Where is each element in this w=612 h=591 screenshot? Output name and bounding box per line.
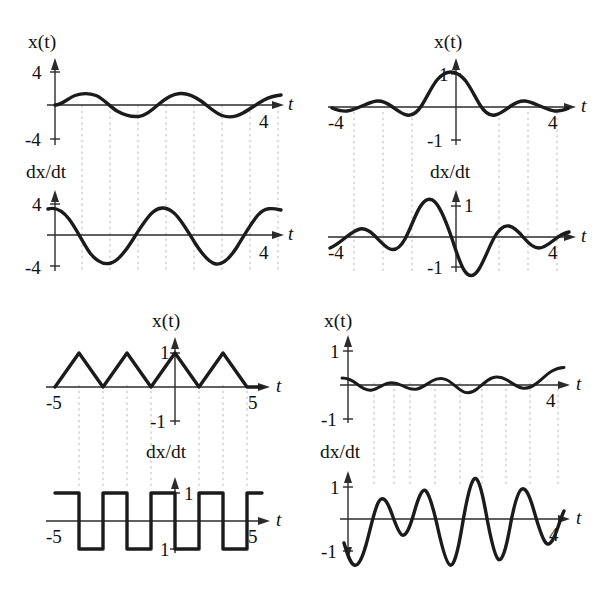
x-axis-label-bottom-right-derivative: t bbox=[576, 507, 582, 528]
subplot-top-left-derivative: dx/dt 4 -4 t 4 bbox=[25, 161, 294, 278]
signal-label-top-left: x(t) bbox=[28, 31, 56, 53]
subplot-bottom-right-derivative: dx/dt 1 -1 t 4 bbox=[320, 441, 582, 565]
curve-bottom-right-derivative bbox=[344, 478, 564, 565]
panel-bottom-right: x(t) 1 -1 t 4 dx/dt bbox=[306, 295, 612, 591]
y-top-label-top-left-derivative: 4 bbox=[32, 194, 42, 215]
panel-top-right: x(t) 1 -1 t -4 4 dx/dt bbox=[306, 0, 612, 296]
x-right-label-bottom-left-derivative: 5 bbox=[248, 526, 258, 547]
x-axis-label-top-right-derivative: t bbox=[581, 225, 587, 246]
curve-bottom-right-signal bbox=[342, 368, 564, 393]
y-axis-arrow-top-left-signal bbox=[51, 58, 59, 70]
panel-bottom-right-svg: x(t) 1 -1 t 4 dx/dt bbox=[306, 295, 612, 591]
panel-bottom-left: x(t) 1 -1 t -5 5 dx/dt bbox=[0, 295, 306, 591]
subplot-bottom-left-signal: x(t) 1 -1 t -5 5 bbox=[46, 310, 282, 432]
y-axis-arrow-bottom-left-derivative bbox=[171, 477, 179, 489]
y-bottom-label-bottom-left-signal: -1 bbox=[150, 411, 166, 432]
panel-top-left-svg: x(t) 4 -4 t 4 dx/dt bbox=[0, 0, 306, 296]
y-top-label-bottom-right-derivative: 1 bbox=[330, 477, 340, 498]
y-bottom-label-bottom-left-derivative: 1 bbox=[160, 539, 170, 560]
x-axis-arrow-top-left-derivative bbox=[272, 231, 284, 239]
subplot-bottom-left-derivative: dx/dt 1 1 t -5 5 bbox=[46, 441, 282, 560]
y-bottom-label-top-right-signal: -1 bbox=[427, 130, 443, 151]
subplot-bottom-right-signal: x(t) 1 -1 t 4 bbox=[321, 310, 582, 430]
curve-top-left-derivative bbox=[48, 208, 281, 264]
y-bottom-label-top-left-signal: -4 bbox=[25, 129, 41, 150]
x-right-label-top-right-signal: 4 bbox=[548, 112, 558, 133]
x-axis-label-top-left-derivative: t bbox=[288, 223, 294, 244]
subplot-top-left-signal: x(t) 4 -4 t 4 bbox=[25, 31, 294, 150]
y-bottom-label-top-left-derivative: -4 bbox=[25, 257, 41, 278]
panel-top-left: x(t) 4 -4 t 4 dx/dt bbox=[0, 0, 306, 296]
gridlines-bottom-left bbox=[79, 385, 247, 487]
y-axis-arrow-bottom-right-signal bbox=[344, 335, 352, 347]
y-top-label-bottom-left-signal: 1 bbox=[160, 342, 170, 363]
y-top-label-top-left-signal: 4 bbox=[32, 62, 42, 83]
x-axis-arrow-bottom-left-derivative bbox=[258, 517, 270, 525]
derivative-label-bottom-right: dx/dt bbox=[320, 441, 361, 462]
derivative-label-bottom-left: dx/dt bbox=[146, 441, 187, 462]
x-left-label-top-right-signal: -4 bbox=[328, 112, 344, 133]
y-bottom-label-bottom-right-signal: -1 bbox=[321, 409, 337, 430]
figure-canvas: x(t) 4 -4 t 4 dx/dt bbox=[0, 0, 612, 591]
y-axis-arrow-top-right-derivative bbox=[452, 190, 460, 202]
x-left-label-bottom-left-signal: -5 bbox=[46, 392, 62, 413]
y-top-label-bottom-right-signal: 1 bbox=[330, 341, 340, 362]
subplot-top-right-signal: x(t) 1 -1 t -4 4 bbox=[328, 31, 587, 151]
y-bottom-label-bottom-right-derivative: -1 bbox=[321, 541, 337, 562]
panel-top-right-svg: x(t) 1 -1 t -4 4 dx/dt bbox=[306, 0, 612, 296]
y-axis-arrow-bottom-right-derivative bbox=[344, 471, 352, 483]
x-right-label-bottom-left-signal: 5 bbox=[248, 392, 258, 413]
signal-label-bottom-left: x(t) bbox=[152, 310, 180, 332]
y-axis-arrow-bottom-left-signal bbox=[171, 337, 179, 349]
curve-bottom-left-signal bbox=[55, 353, 262, 387]
derivative-label-top-right: dx/dt bbox=[430, 161, 471, 182]
curve-top-right-signal bbox=[332, 72, 568, 115]
x-right-label-top-left-derivative: 4 bbox=[259, 242, 269, 263]
signal-label-top-right: x(t) bbox=[434, 31, 462, 53]
x-right-label-top-left-signal: 4 bbox=[259, 111, 269, 132]
y-top-label-top-right-derivative: 1 bbox=[464, 195, 474, 216]
signal-label-bottom-right: x(t) bbox=[324, 310, 352, 332]
subplot-top-right-derivative: dx/dt 1 -1 t -4 4 bbox=[328, 161, 587, 278]
y-top-label-bottom-left-derivative: 1 bbox=[184, 483, 194, 504]
x-axis-label-bottom-right-signal: t bbox=[576, 373, 582, 394]
x-axis-label-top-left-signal: t bbox=[288, 93, 294, 114]
gridlines-bottom-right bbox=[374, 383, 558, 485]
x-right-label-bottom-right-signal: 4 bbox=[546, 390, 556, 411]
x-left-label-bottom-left-derivative: -5 bbox=[46, 526, 62, 547]
y-axis-arrow-top-left-derivative bbox=[51, 190, 59, 202]
y-axis-arrow-top-right-signal bbox=[452, 58, 460, 70]
x-axis-label-bottom-left-signal: t bbox=[276, 375, 282, 396]
x-axis-label-top-right-signal: t bbox=[581, 95, 587, 116]
x-axis-arrow-bottom-right-signal bbox=[558, 381, 570, 389]
panel-bottom-left-svg: x(t) 1 -1 t -5 5 dx/dt bbox=[0, 295, 306, 591]
gridlines-top-left bbox=[82, 105, 278, 270]
y-bottom-label-top-right-derivative: -1 bbox=[427, 257, 443, 278]
derivative-label-top-left: dx/dt bbox=[26, 161, 67, 182]
x-axis-label-bottom-left-derivative: t bbox=[276, 509, 282, 530]
x-axis-arrow-top-left-signal bbox=[272, 101, 284, 109]
